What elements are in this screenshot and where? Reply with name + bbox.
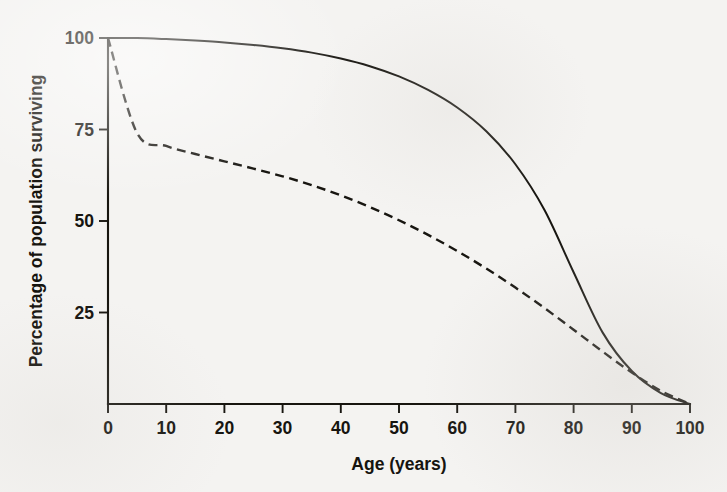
y-tick-label-75: 75 xyxy=(75,120,95,140)
x-tick-label-30: 30 xyxy=(273,418,293,438)
y-axis-tick-labels: 255075100 xyxy=(65,28,94,323)
x-tick-label-60: 60 xyxy=(447,418,467,438)
x-tick-label-0: 0 xyxy=(103,418,113,438)
x-axis-tick-labels: 0102030405060708090100 xyxy=(103,418,705,438)
x-axis-title: Age (years) xyxy=(351,454,446,474)
x-tick-label-50: 50 xyxy=(389,418,409,438)
y-axis-title: Percentage of population surviving xyxy=(26,75,46,368)
x-tick-label-80: 80 xyxy=(564,418,584,438)
y-tick-label-25: 25 xyxy=(75,303,95,323)
survivorship-chart: 255075100 0102030405060708090100 Age (ye… xyxy=(0,0,727,492)
y-tick-label-50: 50 xyxy=(75,211,95,231)
x-tick-label-100: 100 xyxy=(675,418,704,438)
y-axis-ticks xyxy=(99,38,108,313)
x-tick-label-10: 10 xyxy=(156,418,176,438)
y-tick-label-100: 100 xyxy=(65,28,94,48)
dashed-survivorship-curve xyxy=(108,38,690,404)
x-tick-label-40: 40 xyxy=(331,418,351,438)
x-tick-label-90: 90 xyxy=(622,418,642,438)
x-axis-ticks xyxy=(108,404,690,413)
x-tick-label-70: 70 xyxy=(506,418,526,438)
x-tick-label-20: 20 xyxy=(215,418,235,438)
